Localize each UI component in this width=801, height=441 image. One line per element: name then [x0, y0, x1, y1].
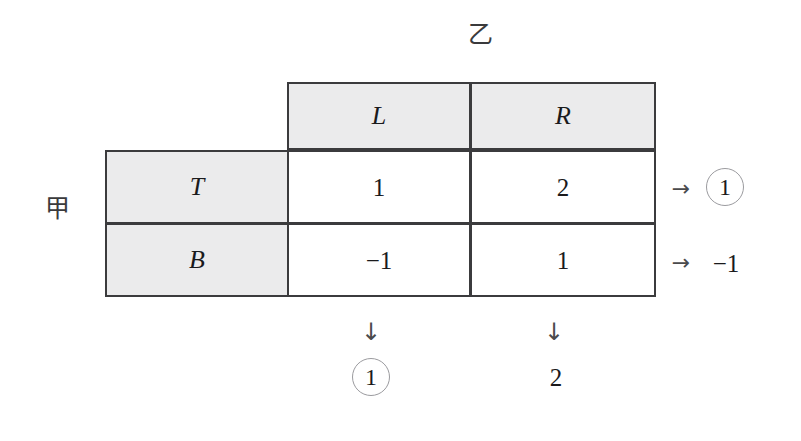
- row-header-cell-B: B: [105, 223, 289, 297]
- payoff-cell-T-L: 1: [287, 150, 471, 224]
- circled-value-marker: 1: [706, 168, 744, 206]
- row-header-label: T: [190, 174, 204, 200]
- row-header-cell-T: T: [105, 150, 289, 224]
- right-arrow-glyph: →: [672, 252, 690, 274]
- payoff-value: 1: [557, 248, 570, 273]
- best-response-value: 1: [365, 365, 377, 389]
- payoff-cell-B-L: −1: [287, 223, 471, 297]
- column-best-response-L: 1: [352, 358, 390, 396]
- down-arrow-icon-col-R: ↓: [541, 312, 567, 352]
- best-response-value: 2: [550, 365, 563, 390]
- payoff-value: 2: [557, 175, 570, 200]
- column-header-cell-R: R: [470, 82, 656, 150]
- right-arrow-icon-row-B: →: [660, 250, 702, 276]
- column-best-response-R: 2: [534, 358, 578, 396]
- payoff-value: −1: [366, 248, 393, 273]
- down-arrow-icon-col-L: ↓: [358, 312, 384, 352]
- payoff-matrix-figure: 乙 甲 L R T B 1 2 −1 1 → 1 → −1 ↓: [0, 0, 801, 441]
- row-best-response-T: 1: [706, 168, 744, 206]
- row-best-response-B: −1: [704, 248, 748, 278]
- column-header-label: R: [555, 103, 571, 129]
- down-arrow-glyph: ↓: [361, 320, 381, 344]
- circled-value-marker: 1: [352, 358, 390, 396]
- row-player-label: 甲: [22, 196, 92, 221]
- row-header-label: B: [189, 247, 205, 273]
- column-header-label: L: [372, 103, 386, 129]
- right-arrow-glyph: →: [672, 178, 690, 200]
- best-response-value: −1: [713, 251, 740, 276]
- column-player-label: 乙: [430, 22, 530, 47]
- column-header-cell-L: L: [287, 82, 471, 150]
- down-arrow-glyph: ↓: [544, 320, 564, 344]
- best-response-value: 1: [719, 175, 731, 199]
- payoff-cell-T-R: 2: [470, 150, 656, 224]
- payoff-cell-B-R: 1: [470, 223, 656, 297]
- payoff-value: 1: [373, 175, 386, 200]
- right-arrow-icon-row-T: →: [660, 176, 702, 202]
